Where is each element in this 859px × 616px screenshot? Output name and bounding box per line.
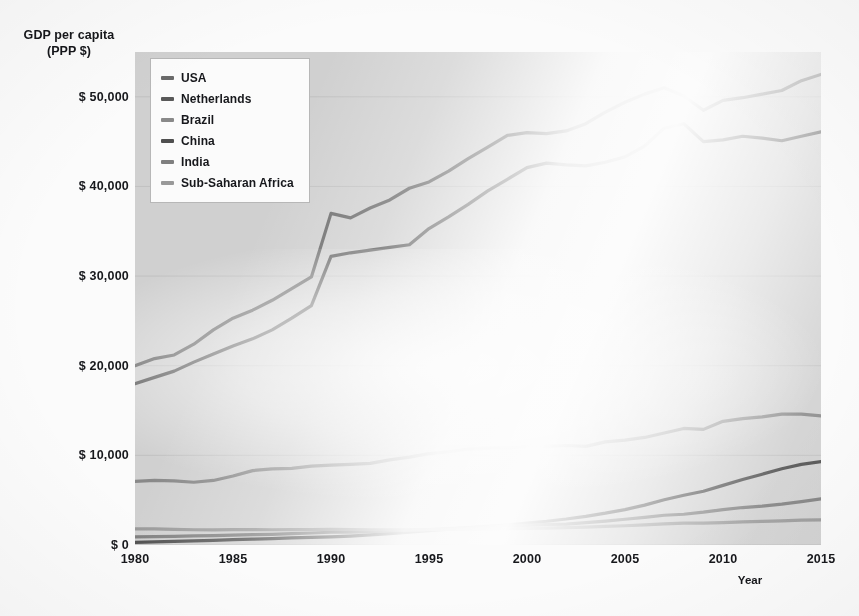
legend-item-label: Netherlands xyxy=(181,92,251,106)
x-axis-tick-label: 2010 xyxy=(688,552,758,566)
chart-legend: USANetherlandsBrazilChinaIndiaSub-Sahara… xyxy=(150,58,310,203)
legend-swatch-icon xyxy=(161,139,174,143)
y-axis-tick-label: $ 30,000 xyxy=(7,269,129,283)
legend-item-netherlands[interactable]: Netherlands xyxy=(159,88,301,109)
x-axis-tick-label: 2015 xyxy=(786,552,856,566)
series-line-brazil xyxy=(135,414,821,482)
x-axis-title: Year xyxy=(700,574,800,586)
x-axis-tick-label: 1985 xyxy=(198,552,268,566)
y-axis-tick-labels: $ 0$ 10,000$ 20,000$ 30,000$ 40,000$ 50,… xyxy=(0,0,129,616)
legend-item-usa[interactable]: USA xyxy=(159,67,301,88)
x-axis-tick-label: 2000 xyxy=(492,552,562,566)
legend-swatch-icon xyxy=(161,97,174,101)
x-axis-tick-label: 1980 xyxy=(100,552,170,566)
x-axis-tick-label: 1995 xyxy=(394,552,464,566)
chart-figure: GDP per capita (PPP $) $ 0$ 10,000$ 20,0… xyxy=(0,0,859,616)
legend-swatch-icon xyxy=(161,118,174,122)
series-line-sub-saharan-africa xyxy=(135,520,821,530)
x-axis-tick-label: 2005 xyxy=(590,552,660,566)
y-axis-tick-label: $ 0 xyxy=(7,538,129,552)
legend-item-sub-saharan-africa[interactable]: Sub-Saharan Africa xyxy=(159,172,301,193)
legend-item-label: India xyxy=(181,155,210,169)
legend-swatch-icon xyxy=(161,181,174,185)
y-axis-tick-label: $ 10,000 xyxy=(7,448,129,462)
y-axis-tick-label: $ 40,000 xyxy=(7,179,129,193)
legend-item-india[interactable]: India xyxy=(159,151,301,172)
legend-item-label: Brazil xyxy=(181,113,214,127)
legend-item-label: USA xyxy=(181,71,207,85)
y-axis-tick-label: $ 20,000 xyxy=(7,359,129,373)
x-axis-tick-label: 1990 xyxy=(296,552,366,566)
y-axis-tick-label: $ 50,000 xyxy=(7,90,129,104)
legend-item-label: China xyxy=(181,134,215,148)
legend-swatch-icon xyxy=(161,160,174,164)
legend-swatch-icon xyxy=(161,76,174,80)
legend-item-brazil[interactable]: Brazil xyxy=(159,109,301,130)
legend-item-china[interactable]: China xyxy=(159,130,301,151)
legend-item-label: Sub-Saharan Africa xyxy=(181,176,294,190)
